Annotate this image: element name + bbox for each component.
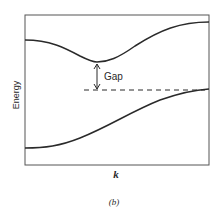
panel-label: (b) (109, 197, 120, 207)
plot-frame (25, 15, 209, 165)
band-gap-figure: Gap Energy k (b) (0, 0, 220, 208)
upper-band-curve (25, 22, 209, 62)
gap-arrow-icon (94, 64, 100, 89)
y-axis-label: Energy (11, 80, 21, 109)
x-axis-label: k (113, 168, 119, 180)
lower-band-curve (25, 89, 209, 148)
gap-label: Gap (104, 71, 123, 82)
